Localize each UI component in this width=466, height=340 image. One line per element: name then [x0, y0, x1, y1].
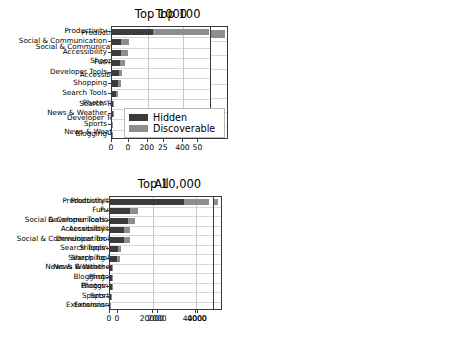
bar-segment-discoverable	[121, 39, 129, 45]
bar-segment-hidden	[110, 256, 117, 262]
chart-title: All	[69, 178, 254, 191]
x-axis-tick	[197, 139, 198, 142]
bar-row	[110, 284, 214, 290]
y-axis-label: Social & Communication	[17, 235, 105, 242]
x-axis-label: 50	[193, 144, 203, 152]
y-axis-label: Developer Tools	[48, 216, 105, 223]
bar-segment-discoverable	[111, 294, 112, 300]
bar-row	[110, 227, 214, 233]
y-axis-label: Search Tools	[60, 245, 105, 252]
x-axis-label: 25	[158, 144, 168, 152]
y-axis-label: Shopping	[71, 254, 105, 261]
bar-segment-discoverable	[112, 265, 113, 271]
x-axis-tick	[163, 139, 164, 142]
bar-segment-discoverable	[120, 60, 125, 66]
gridline-horizontal	[112, 78, 210, 79]
figure: Top 100ProductivitySocial & Communicatio…	[0, 0, 466, 340]
legend-swatch-hidden	[129, 114, 148, 121]
y-axis-label: Productivity	[62, 197, 105, 204]
y-axis-tick	[108, 83, 111, 84]
y-axis-tick	[106, 229, 109, 230]
x-axis-label: 0	[109, 144, 114, 152]
chart-title: Top 1000	[71, 8, 251, 21]
bar-segment-discoverable	[117, 256, 120, 262]
y-axis-tick	[108, 93, 111, 94]
bar-row	[112, 101, 211, 107]
x-axis-tick	[157, 310, 158, 313]
legend-label: Discoverable	[153, 123, 215, 134]
bar-segment-hidden	[110, 237, 124, 243]
bar-segment-discoverable	[121, 50, 129, 56]
bar-segment-discoverable	[184, 199, 209, 205]
y-axis-label: Accessibility	[61, 226, 105, 233]
bar-segment-discoverable	[112, 275, 113, 281]
gridline-horizontal	[110, 216, 213, 217]
y-axis-label: Fun	[94, 58, 107, 65]
bar-segment-discoverable	[112, 122, 113, 128]
gridline-horizontal	[110, 254, 213, 255]
legend-swatch-discoverable	[129, 125, 148, 132]
bar-row	[110, 265, 214, 271]
y-axis-tick	[108, 62, 111, 63]
y-axis-label: News & Weather	[47, 110, 107, 117]
gridline-horizontal	[112, 99, 210, 100]
bar-segment-discoverable	[110, 303, 111, 309]
y-axis-tick	[108, 52, 111, 53]
bar-segment-discoverable	[113, 101, 114, 107]
bar-row	[110, 303, 214, 309]
bar-segment-hidden	[110, 227, 124, 233]
bar-segment-hidden	[112, 60, 120, 66]
x-axis-label: 400	[175, 144, 190, 152]
y-axis-label: Photos	[83, 99, 107, 106]
chart-panel-2: Top 1000ProductivitySocial & Communicati…	[233, 0, 466, 170]
bar-segment-hidden	[112, 39, 121, 45]
x-axis-tick	[117, 310, 118, 313]
bar-segment-discoverable	[112, 284, 113, 290]
y-axis-label: Extensions	[66, 302, 105, 309]
bar-segment-discoverable	[118, 80, 121, 86]
bar-segment-hidden	[110, 208, 130, 214]
gridline-horizontal	[110, 292, 213, 293]
y-axis-tick	[106, 210, 109, 211]
x-axis-tick	[109, 310, 110, 313]
x-axis-label: 0	[126, 144, 131, 152]
x-axis-tick	[147, 139, 148, 142]
legend-label: Hidden	[153, 112, 187, 123]
y-axis-tick	[108, 41, 111, 42]
bar-segment-discoverable	[124, 227, 130, 233]
bar-row	[110, 294, 214, 300]
y-axis-tick	[106, 277, 109, 278]
y-axis-label: Sports	[84, 120, 107, 127]
y-axis-tick	[108, 124, 111, 125]
gridline-horizontal	[110, 273, 213, 274]
bar-row	[110, 208, 214, 214]
x-axis-tick	[128, 139, 129, 142]
y-axis-label: Blogging	[75, 130, 107, 137]
bar-row	[110, 199, 214, 205]
bar-segment-discoverable	[112, 132, 113, 138]
y-axis-tick	[106, 201, 109, 202]
y-axis-tick	[106, 286, 109, 287]
gridline-horizontal	[112, 68, 210, 69]
bar-row	[112, 39, 211, 45]
y-axis-label: News & Weather	[45, 264, 105, 271]
bar-row	[110, 218, 214, 224]
bar-segment-hidden	[110, 199, 184, 205]
y-axis-label: Productivity	[64, 28, 107, 35]
bar-segment-discoverable	[113, 111, 114, 117]
chart-legend: HiddenDiscoverable	[124, 108, 225, 138]
bar-segment-discoverable	[119, 70, 123, 76]
bar-segment-discoverable	[124, 237, 130, 243]
bar-row	[112, 70, 211, 76]
bar-row	[110, 246, 214, 252]
y-axis-tick	[106, 220, 109, 221]
y-axis-label: Search Tools	[62, 89, 107, 96]
bar-segment-discoverable	[128, 218, 135, 224]
bar-row	[110, 275, 214, 281]
bar-row	[112, 50, 211, 56]
y-axis-label: Sports	[82, 292, 105, 299]
bar-segment-hidden	[112, 29, 153, 35]
y-axis-tick	[108, 113, 111, 114]
y-axis-tick	[106, 267, 109, 268]
bar-segment-hidden	[110, 246, 118, 252]
